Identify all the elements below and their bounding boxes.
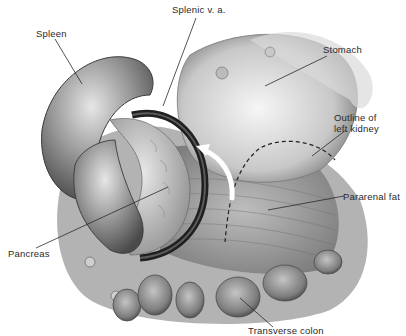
label-transverse-colon: Transverse colon	[248, 325, 324, 336]
label-pancreas: Pancreas	[8, 248, 50, 259]
label-pararenal-fat: Pararenal fat	[343, 191, 400, 202]
label-splenic-vessels: Splenic v. a.	[172, 4, 226, 15]
anatomy-figure: Spleen Splenic v. a. Stomach Outline of …	[0, 0, 406, 336]
label-stomach: Stomach	[323, 44, 362, 55]
label-kidney-outline: Outline of left kidney	[334, 112, 379, 134]
label-kidney-line2: left kidney	[334, 123, 379, 134]
label-spleen: Spleen	[36, 28, 67, 39]
label-kidney-line1: Outline of	[334, 112, 379, 123]
